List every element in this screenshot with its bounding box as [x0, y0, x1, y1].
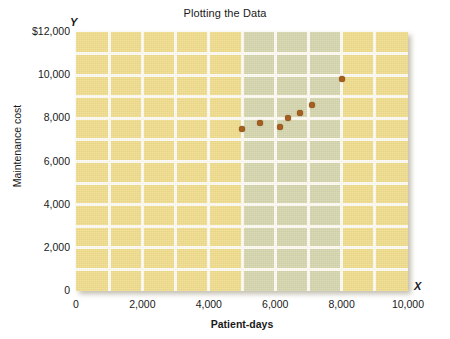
x-tick-label: 10,000 [378, 298, 438, 310]
horizontal-gridline [76, 246, 408, 249]
y-tick-label: 8,000 [0, 111, 70, 123]
horizontal-gridline [76, 52, 408, 55]
y-tick-label: $12,000 [0, 25, 70, 37]
y-tick-label: 0 [0, 284, 70, 296]
x-axis-title: Patient-days [76, 318, 408, 330]
horizontal-gridline [76, 225, 408, 228]
horizontal-gridline [76, 182, 408, 185]
y-axis-letter: Y [70, 16, 77, 28]
horizontal-gridline [76, 203, 408, 206]
x-tick-label: 4,000 [179, 298, 239, 310]
horizontal-gridline [76, 138, 408, 141]
y-tick-label: 2,000 [0, 241, 70, 253]
x-tick-label: 0 [46, 298, 106, 310]
x-tick-label: 8,000 [312, 298, 372, 310]
scatter-plot-figure: Plotting the Data Y X Maintenance cost P… [0, 0, 450, 339]
y-tick-label: 10,000 [0, 68, 70, 80]
data-point [297, 110, 303, 116]
data-point [257, 120, 263, 126]
x-axis-letter: X [414, 280, 421, 292]
y-tick-label: 4,000 [0, 198, 70, 210]
x-tick-label: 2,000 [112, 298, 172, 310]
y-tick-label: 6,000 [0, 155, 70, 167]
plot-area [76, 32, 408, 291]
horizontal-gridline [76, 268, 408, 271]
horizontal-gridline [76, 160, 408, 163]
data-point [339, 76, 345, 82]
horizontal-gridline [76, 74, 408, 77]
page-title: Plotting the Data [0, 7, 450, 19]
horizontal-gridline [76, 117, 408, 120]
x-tick-label: 6,000 [245, 298, 305, 310]
horizontal-gridline [76, 95, 408, 98]
